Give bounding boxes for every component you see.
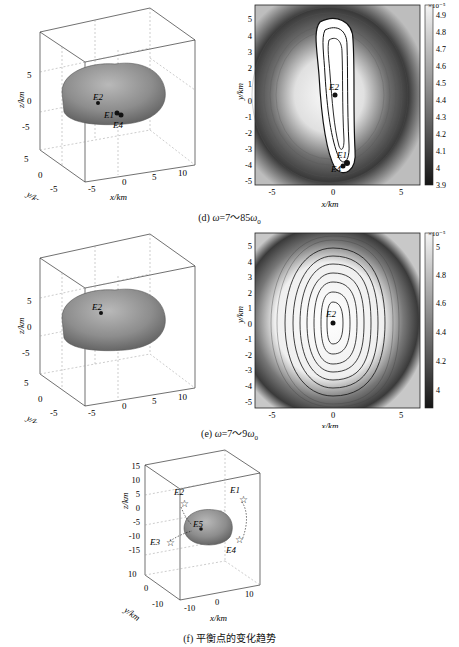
panel-f-3d-plot: ☆ ☆ ☆ ☆ E2 E1 E3 E4 E5 15105 0-5-10 -15 … [110, 445, 280, 625]
svg-text:y/km: y/km [235, 83, 245, 101]
svg-text:5: 5 [152, 172, 157, 182]
svg-text:4.2: 4.2 [436, 130, 446, 139]
svg-text:4.6: 4.6 [436, 62, 446, 71]
svg-text:-15: -15 [129, 545, 140, 555]
panel-e-3d-plot: E2 50-5 z/km 50-5 y/km -50510 [0, 228, 225, 423]
svg-text:-1: -1 [245, 334, 252, 344]
caption-e: (e) ω=7～9ω0 [0, 425, 459, 442]
svg-text:-4: -4 [245, 381, 253, 391]
panel-e-contour-plot: E2 543 210 -1-2-3 -4-5 y/km -505 x/km 54… [225, 228, 459, 428]
svg-text:0: 0 [331, 410, 335, 420]
point-label-e1: E1 [103, 110, 114, 120]
svg-text:-3: -3 [245, 144, 252, 154]
svg-text:4.4: 4.4 [436, 96, 446, 105]
svg-text:E4: E4 [330, 164, 341, 174]
svg-text:-10: -10 [152, 599, 163, 609]
svg-text:4.3: 4.3 [436, 113, 446, 122]
svg-text:-3: -3 [245, 365, 252, 375]
svg-text:5: 5 [24, 154, 29, 164]
svg-text:-5: -5 [22, 348, 30, 358]
svg-text:E5: E5 [192, 519, 203, 529]
svg-text:3.9: 3.9 [436, 181, 446, 190]
svg-text:2: 2 [248, 63, 252, 73]
svg-text:5: 5 [27, 70, 32, 80]
svg-text:4.6: 4.6 [436, 299, 446, 308]
svg-text:1: 1 [248, 79, 252, 89]
panel-d-contour-plot: E2 E1 E4 543 210 -1-2-3 -4-5 y/km -505 x… [225, 0, 459, 210]
svg-text:4: 4 [248, 257, 253, 267]
svg-text:0: 0 [136, 503, 140, 513]
svg-text:-5: -5 [268, 187, 275, 197]
panel-d-3d-plot: E2 E1 E4 5 0 -5 z/km 5 0 -5 y/km -5 0 5 … [0, 0, 225, 200]
svg-text:-2: -2 [245, 128, 252, 138]
svg-text:E2: E2 [328, 82, 339, 92]
svg-text:x/km: x/km [109, 192, 127, 200]
svg-text:z/km: z/km [16, 91, 26, 109]
svg-text:4: 4 [436, 386, 440, 395]
svg-text:E1: E1 [229, 485, 240, 495]
svg-text:3: 3 [248, 272, 252, 282]
svg-text:4: 4 [248, 31, 253, 41]
svg-text:☆: ☆ [166, 537, 175, 548]
svg-text:-2: -2 [245, 350, 252, 360]
svg-text:0: 0 [248, 96, 252, 106]
svg-text:4.1: 4.1 [436, 147, 446, 156]
svg-text:5: 5 [248, 241, 252, 251]
svg-text:5: 5 [27, 296, 32, 306]
svg-text:×10⁻⁵: ×10⁻⁵ [428, 2, 446, 10]
svg-text:3: 3 [248, 47, 252, 57]
svg-text:0: 0 [248, 319, 252, 329]
svg-text:5: 5 [399, 187, 403, 197]
svg-text:10: 10 [245, 589, 254, 599]
point-label-e4: E4 [112, 120, 123, 130]
svg-text:-10: -10 [129, 531, 140, 541]
svg-text:0: 0 [38, 170, 43, 180]
svg-text:4.9: 4.9 [436, 11, 446, 20]
caption-f: (f) 平衡点的变化趋势 [0, 630, 459, 645]
svg-text:x/km: x/km [209, 613, 227, 623]
svg-text:5: 5 [152, 396, 157, 406]
svg-text:×10⁻⁵: ×10⁻⁵ [428, 230, 446, 238]
svg-text:10: 10 [132, 475, 141, 485]
svg-text:☆: ☆ [239, 494, 248, 505]
caption-d: (d) ω=7～85ω0 [0, 209, 459, 226]
svg-text:z/km: z/km [120, 492, 130, 510]
svg-text:☆: ☆ [180, 498, 189, 509]
svg-text:x/km: x/km [321, 199, 339, 209]
svg-text:4.2: 4.2 [436, 357, 446, 366]
svg-text:0: 0 [38, 394, 43, 404]
svg-text:4: 4 [436, 164, 440, 173]
svg-text:E1: E1 [336, 150, 347, 160]
point-label-e2: E2 [92, 92, 103, 102]
svg-text:0: 0 [27, 322, 32, 332]
svg-text:-4: -4 [245, 160, 253, 170]
colorbar-e-ticks: 54.84.6 4.44.24 [436, 243, 446, 395]
svg-text:0: 0 [122, 401, 127, 411]
svg-text:0: 0 [331, 187, 335, 197]
svg-text:2: 2 [248, 288, 252, 298]
svg-text:4.7: 4.7 [436, 45, 446, 54]
svg-text:☆: ☆ [235, 534, 244, 545]
svg-text:-5: -5 [88, 184, 96, 194]
svg-text:E2: E2 [91, 302, 102, 312]
svg-text:5: 5 [24, 378, 29, 388]
svg-text:4.5: 4.5 [436, 79, 446, 88]
svg-text:15: 15 [132, 461, 141, 471]
svg-text:5: 5 [399, 410, 403, 420]
svg-text:4.4: 4.4 [436, 328, 446, 337]
svg-text:E2: E2 [173, 487, 184, 497]
svg-text:10: 10 [178, 168, 188, 178]
svg-text:E3: E3 [149, 537, 160, 547]
svg-text:5: 5 [248, 14, 252, 24]
svg-text:z/km: z/km [16, 317, 26, 335]
svg-text:0: 0 [27, 96, 32, 106]
svg-text:-5: -5 [50, 408, 58, 418]
svg-text:-5: -5 [88, 408, 96, 418]
svg-text:-5: -5 [133, 517, 140, 527]
svg-text:4.8: 4.8 [436, 271, 446, 280]
svg-text:0: 0 [144, 583, 148, 593]
svg-text:y/km: y/km [121, 604, 142, 623]
svg-text:0: 0 [122, 177, 127, 187]
svg-text:y/km: y/km [24, 189, 45, 200]
svg-text:E2: E2 [325, 309, 336, 319]
